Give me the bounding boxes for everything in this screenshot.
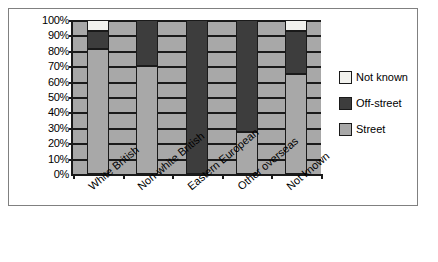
y-axis-tick-label: 50% xyxy=(17,92,69,103)
legend-item-street[interactable]: Street xyxy=(339,123,438,136)
legend-item-off[interactable]: Off-street xyxy=(339,97,438,110)
y-axis-tick-label: 40% xyxy=(17,107,69,118)
legend-label: Not known xyxy=(356,72,408,83)
y-axis-labels: 100%90%80%70%60%50%40%30%20%10%0% xyxy=(17,13,69,181)
legend-label: Off-street xyxy=(356,98,402,109)
y-axis-tick-label: 10% xyxy=(17,154,69,165)
x-axis-labels: White BritishNon-white BritishEastern Eu… xyxy=(71,179,371,249)
chart-frame: 100%90%80%70%60%50%40%30%20%10%0% White … xyxy=(8,8,418,206)
y-axis-tick-label: 30% xyxy=(17,123,69,134)
y-axis-tick-label: 0% xyxy=(17,169,69,180)
y-axis-tick-label: 60% xyxy=(17,77,69,88)
legend-label: Street xyxy=(356,124,385,135)
y-axis-tick-label: 70% xyxy=(17,61,69,72)
y-axis-tick-label: 80% xyxy=(17,46,69,57)
y-axis-tick-label: 20% xyxy=(17,138,69,149)
chart-screenshot: 100%90%80%70%60%50%40%30%20%10%0% White … xyxy=(0,0,438,262)
legend-swatch-unknown xyxy=(339,71,352,84)
legend-item-unknown[interactable]: Not known xyxy=(339,71,438,84)
y-axis-tick-label: 100% xyxy=(17,15,69,26)
chart-legend: Not knownOff-streetStreet xyxy=(339,71,438,149)
y-axis-tick-label: 90% xyxy=(17,30,69,41)
legend-swatch-off xyxy=(339,97,352,110)
legend-swatch-street xyxy=(339,123,352,136)
